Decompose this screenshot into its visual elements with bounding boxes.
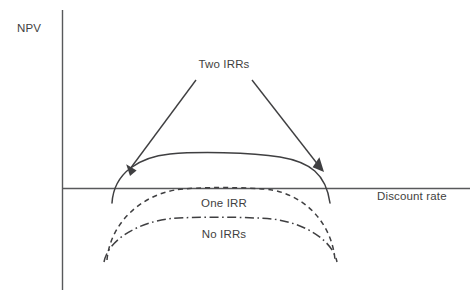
y-axis-label: NPV — [17, 22, 41, 34]
annotation-arrow-left — [126, 80, 196, 176]
curve-two-irrs — [112, 153, 330, 203]
annotation-label-one-irr: One IRR — [201, 197, 247, 209]
annotation-label-no-irrs: No IRRs — [202, 228, 247, 240]
x-axis-label: Discount rate — [377, 190, 447, 202]
annotation-label-two-irrs: Two IRRs — [198, 58, 249, 70]
chart-canvas — [0, 0, 476, 304]
npv-irr-chart: NPV Discount rate Two IRRs One IRR No IR… — [0, 0, 476, 304]
